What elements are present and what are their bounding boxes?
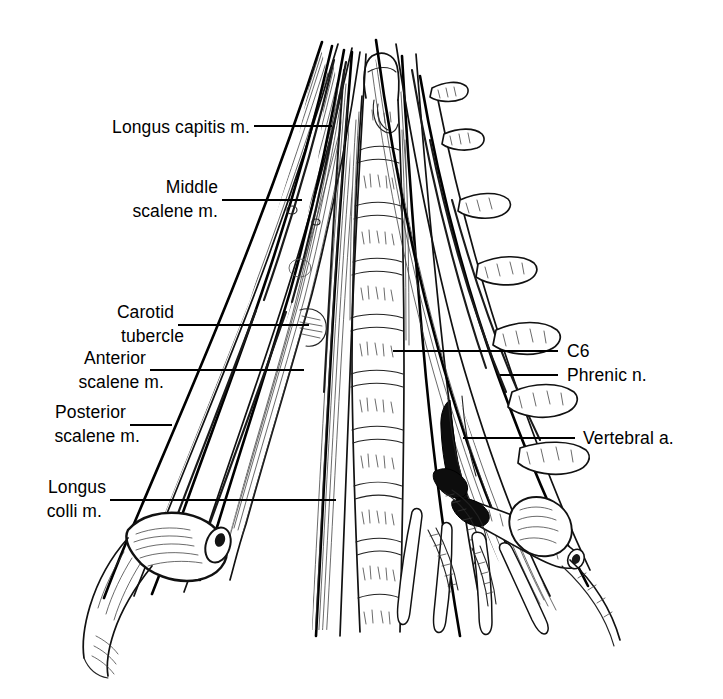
label-anterior-scalene-line1: Anterior xyxy=(84,348,146,368)
nerve-root-stump xyxy=(458,193,510,218)
label-middle-scalene-line2: scalene m. xyxy=(132,201,218,221)
label-posterior-scalene-line1: Posterior xyxy=(55,402,126,422)
label-carotid-tubercle-line2: tubercle xyxy=(121,326,184,346)
nerve-root-stump xyxy=(476,257,537,285)
label-middle-scalene-line1: Middle xyxy=(166,177,218,197)
label-carotid-tubercle-line1: Carotid xyxy=(117,302,174,322)
label-longus-capitis: Longus capitis m. xyxy=(112,117,250,137)
nerve-root-stump xyxy=(493,323,560,355)
label-phrenic-nerve: Phrenic n. xyxy=(567,365,647,385)
label-c6: C6 xyxy=(567,341,590,361)
illustration-canvas: Longus capitis m. Middle scalene m. Caro… xyxy=(0,0,723,699)
nerve-root-stump xyxy=(442,129,484,150)
label-posterior-scalene-line2: scalene m. xyxy=(54,426,140,446)
label-vertebral-artery: Vertebral a. xyxy=(583,428,674,448)
nerve-root-stump xyxy=(508,385,577,418)
nerve-root-stump xyxy=(518,442,589,474)
anatomical-figure: Longus capitis m. Middle scalene m. Caro… xyxy=(0,0,723,699)
label-longus-colli-line2: colli m. xyxy=(47,501,102,521)
label-anterior-scalene-line2: scalene m. xyxy=(78,372,164,392)
label-longus-colli-line1: Longus xyxy=(48,477,106,497)
